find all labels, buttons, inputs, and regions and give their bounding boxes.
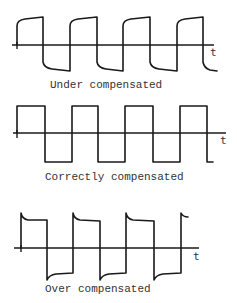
- caption-over-compensated: Over compensated: [45, 283, 151, 295]
- axis-label-t: t: [210, 46, 217, 59]
- waveform-under-compensated: [17, 17, 217, 71]
- panel-correctly-compensated: t Correctly compensated: [13, 106, 227, 183]
- waveform-over-compensated: [21, 213, 188, 280]
- caption-under-compensated: Under compensated: [50, 79, 162, 91]
- panel-over-compensated: t Over compensated: [14, 213, 200, 295]
- axis-label-t: t: [193, 250, 200, 263]
- axis-label-t: t: [220, 134, 227, 147]
- caption-correctly-compensated: Correctly compensated: [45, 171, 184, 183]
- waveform-correctly-compensated: [17, 106, 213, 162]
- compensation-diagram: t Under compensated t Correctly compensa…: [0, 0, 237, 303]
- panel-under-compensated: t Under compensated: [12, 17, 217, 91]
